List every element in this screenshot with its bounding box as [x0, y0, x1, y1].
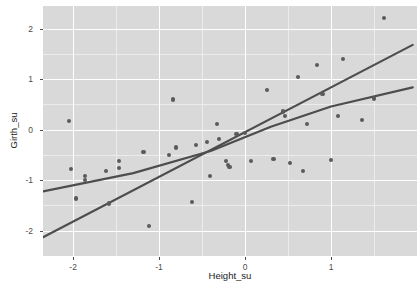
x-tick-mark: [245, 257, 246, 260]
y-tick-label: -2: [25, 226, 33, 236]
data-point: [171, 97, 175, 101]
data-point: [215, 122, 219, 126]
data-point: [117, 166, 121, 170]
y-tick-mark: [40, 29, 43, 30]
linear-fit: [43, 45, 413, 237]
data-point: [194, 143, 198, 147]
data-point: [271, 157, 275, 161]
x-tick-mark: [331, 257, 332, 260]
x-tick-mark: [159, 257, 160, 260]
data-point: [74, 196, 78, 200]
y-tick-label: 1: [28, 74, 33, 84]
plot-panel: [43, 6, 417, 256]
data-point: [104, 169, 108, 173]
data-point: [243, 131, 247, 135]
scatter-plot-figure: -2-1012 -2-101 Height_su Girth_su: [0, 0, 420, 291]
y-tick-mark: [40, 231, 43, 232]
data-point: [83, 178, 87, 182]
data-point: [190, 200, 194, 204]
data-point: [372, 96, 376, 100]
fitted-lines: [43, 6, 417, 256]
data-point: [227, 165, 231, 169]
data-point: [141, 150, 145, 154]
y-axis-title: Girth_su: [8, 66, 19, 196]
data-point: [305, 122, 309, 126]
data-point: [288, 161, 292, 165]
data-point: [174, 145, 178, 149]
y-tick-mark: [40, 130, 43, 131]
data-point: [147, 224, 151, 228]
y-tick-mark: [40, 180, 43, 181]
data-point: [336, 114, 340, 118]
y-tick-mark: [40, 79, 43, 80]
shallow-fit: [43, 87, 413, 191]
data-point: [283, 114, 287, 118]
data-point: [360, 118, 364, 122]
data-point: [117, 159, 121, 163]
data-point: [301, 169, 305, 173]
x-axis-title: Height_su: [43, 270, 417, 281]
data-point: [234, 132, 238, 136]
y-axis: -2-1012: [0, 0, 43, 291]
data-point: [107, 201, 111, 205]
y-tick-label: 0: [28, 125, 33, 135]
y-tick-label: -1: [25, 175, 33, 185]
y-tick-label: 2: [28, 24, 33, 34]
x-tick-mark: [73, 257, 74, 260]
